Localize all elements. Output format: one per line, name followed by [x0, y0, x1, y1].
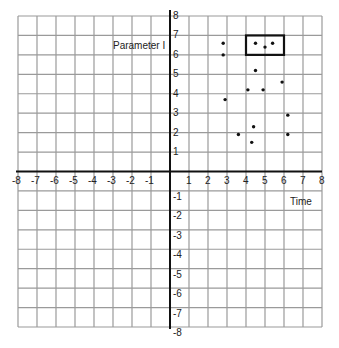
y-tick-label: 8 [173, 10, 179, 21]
y-tick-label: -5 [173, 269, 182, 280]
x-tick-label: 6 [281, 175, 287, 186]
y-tick-label: -2 [173, 210, 182, 221]
x-tick-label: 5 [262, 175, 268, 186]
scatter-chart: -8-7-6-5-4-3-2-112345678-8-7-6-5-4-3-2-1… [0, 0, 339, 348]
axes [16, 10, 322, 329]
y-tick-label: 1 [173, 146, 179, 157]
y-axis-label: Parameter I [113, 40, 165, 51]
data-point [254, 69, 257, 72]
x-tick-label: 7 [300, 175, 306, 186]
y-tick-label: 2 [173, 127, 179, 138]
x-tick-label: 8 [319, 175, 325, 186]
data-point [286, 113, 289, 116]
x-tick-label: -4 [88, 175, 97, 186]
data-point [250, 141, 253, 144]
x-tick-label: -1 [145, 175, 154, 186]
tick-labels: -8-7-6-5-4-3-2-112345678-8-7-6-5-4-3-2-1… [12, 10, 325, 338]
x-tick-label: -8 [12, 175, 21, 186]
data-point [286, 133, 289, 136]
data-point [280, 80, 283, 83]
data-point [263, 45, 266, 48]
y-tick-label: 3 [173, 107, 179, 118]
y-tick-label: 7 [173, 29, 179, 40]
data-point [223, 98, 226, 101]
data-point [271, 42, 274, 45]
data-point [261, 88, 264, 91]
y-tick-label: -8 [173, 327, 182, 338]
x-tick-label: 2 [205, 175, 211, 186]
x-tick-label: 4 [243, 175, 249, 186]
data-point [254, 42, 257, 45]
y-tick-label: -6 [173, 288, 182, 299]
x-tick-label: -7 [31, 175, 40, 186]
data-points [222, 42, 290, 145]
x-tick-label: 1 [186, 175, 192, 186]
x-tick-label: -5 [69, 175, 78, 186]
data-point [237, 133, 240, 136]
y-tick-label: 6 [173, 49, 179, 60]
data-point [246, 88, 249, 91]
y-tick-label: -4 [173, 249, 182, 260]
x-tick-label: -2 [126, 175, 135, 186]
data-point [222, 53, 225, 56]
y-tick-label: -1 [173, 191, 182, 202]
x-tick-label: -6 [50, 175, 59, 186]
x-tick-label: -3 [107, 175, 116, 186]
x-tick-label: 3 [224, 175, 230, 186]
x-axis-label: Time [290, 196, 312, 207]
data-point [222, 42, 225, 45]
data-point [252, 125, 255, 128]
y-tick-label: -7 [173, 308, 182, 319]
y-tick-label: 4 [173, 88, 179, 99]
y-tick-label: -3 [173, 230, 182, 241]
y-tick-label: 5 [173, 68, 179, 79]
